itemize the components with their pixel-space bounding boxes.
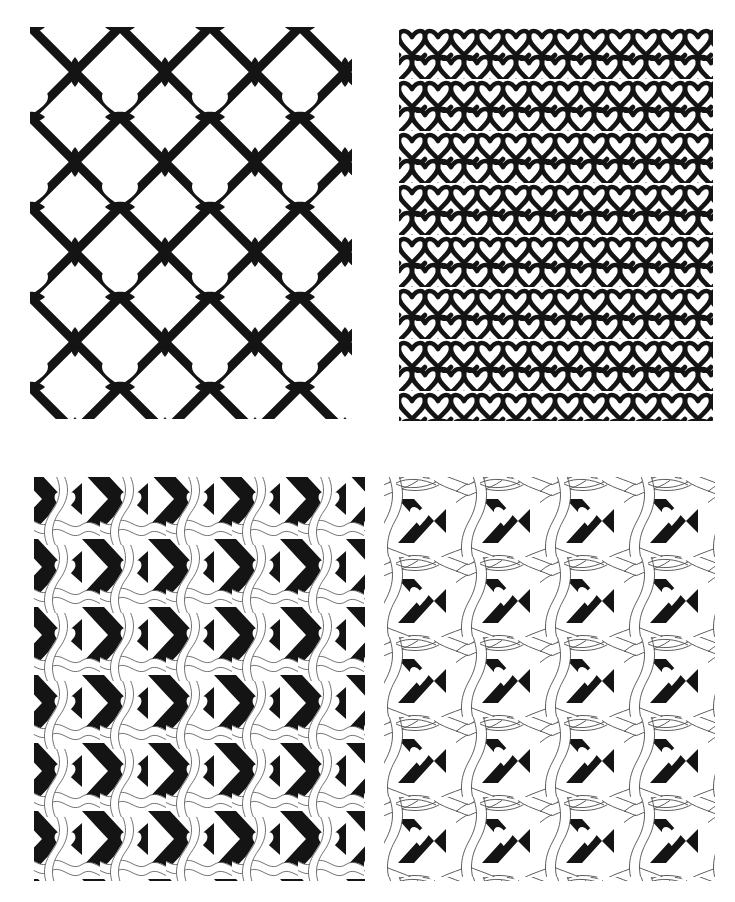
pattern-panel-top-right [399,27,713,421]
pattern-panel-bottom-left [34,477,365,881]
interlocking-heart-mesh-pattern-svg [399,27,713,421]
diagonal-lattice-heart-and-lens-pattern-svg [30,27,352,419]
chevron-and-interlace-strapwork-pattern-solid-svg [34,477,365,881]
pattern-panel-top-left [30,27,352,419]
pattern-panel-bottom-right [384,477,715,881]
pattern-plate: Four geometric ornamental pattern studie… [0,0,735,902]
chevron-and-interlace-strapwork-pattern-outlined-svg [384,477,715,881]
